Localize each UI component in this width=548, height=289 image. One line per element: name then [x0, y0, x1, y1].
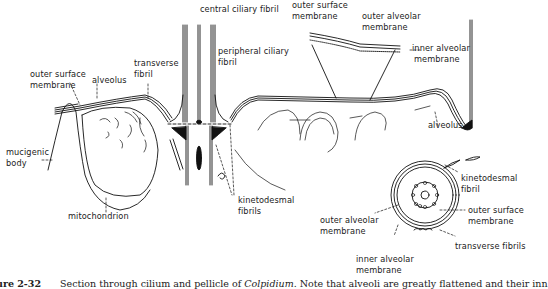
label-line: membrane	[468, 216, 514, 226]
label-line: membrane	[412, 54, 460, 64]
label-line: inner alveolar	[356, 254, 414, 264]
figure-number: ure 2-32	[0, 278, 41, 289]
pellicle-left	[55, 95, 172, 122]
label-line: outer surface	[468, 205, 524, 215]
label-line: fibrils	[238, 206, 261, 216]
caption-text: . Note that alveoli are greatly flattene…	[294, 278, 548, 289]
inset-magnification	[310, 33, 400, 100]
label-line: peripheral ciliary	[218, 46, 289, 56]
figure-caption: Section through cilium and pellicle of C…	[60, 278, 548, 289]
label-peripheral-ciliary-fibril: peripheral ciliaryfibril	[218, 46, 289, 67]
label-line: membrane	[292, 11, 338, 21]
label-inset-outer-alveolar-membrane: outer alveolarmembrane	[362, 11, 421, 32]
label-line: membrane	[356, 265, 402, 275]
label-cs-outer-alveolar-membrane: outer alveolarmembrane	[320, 215, 379, 236]
label-line: transverse	[134, 58, 179, 68]
label-line: inner alveolar	[412, 43, 470, 53]
label-line: fibril	[461, 184, 480, 194]
label-alveolus-right: alveolus	[428, 120, 463, 131]
label-line: outer surface	[292, 0, 348, 10]
label-inset-inner-alveolar-membrane: inner alveolarmembrane	[412, 43, 470, 64]
label-cs-transverse-fibrils: transverse fibrils	[455, 241, 526, 252]
label-line: outer surface	[30, 69, 86, 79]
label-kinetodesmal-fibrils: kinetodesmalfibrils	[238, 195, 294, 216]
label-alveolus-left: alveolus	[92, 75, 127, 86]
label-line: fibril	[134, 69, 153, 79]
caption-text: Section through cilium and pellicle of	[60, 278, 244, 289]
label-line: kinetodesmal	[238, 195, 294, 205]
pellicle-right	[230, 20, 472, 130]
label-cs-kinetodesmal-fibril: kinetodesmalfibril	[461, 173, 517, 194]
label-central-ciliary-fibril: central ciliary fibril	[200, 4, 279, 15]
label-mitochondrion: mitochondrion	[68, 211, 129, 222]
label-cs-inner-alveolar-membrane: inner alveolarmembrane	[356, 254, 414, 275]
label-line: outer alveolar	[362, 11, 421, 21]
label-line: membrane	[362, 22, 408, 32]
label-line: mucigenic	[6, 147, 49, 157]
label-cs-outer-surface-membrane: outer surfacemembrane	[468, 205, 524, 226]
label-line: membrane	[320, 226, 366, 236]
label-line: body	[6, 158, 27, 168]
label-line: fibril	[218, 57, 237, 67]
label-line: membrane	[30, 80, 76, 90]
mitochondrion-outline	[82, 107, 158, 196]
label-outer-surface-membrane-left: outer surfacemembrane	[30, 69, 86, 90]
label-line: kinetodesmal	[461, 173, 517, 183]
label-inset-outer-surface-membrane: outer surfacemembrane	[292, 0, 348, 21]
caption-genus: Colpidium	[244, 278, 293, 289]
label-mucigenic-body: mucigenicbody	[6, 147, 49, 168]
label-line: outer alveolar	[320, 215, 379, 225]
label-transverse-fibril: transversefibril	[134, 58, 179, 79]
mucigenic-body-outline	[62, 104, 150, 211]
